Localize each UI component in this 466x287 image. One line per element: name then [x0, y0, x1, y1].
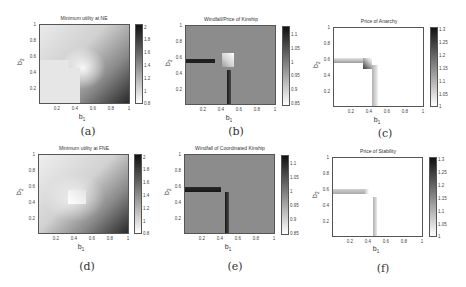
chart-title: Price of Anarchy	[361, 18, 397, 24]
y-tick: 1	[315, 155, 329, 160]
y-tick: 1	[168, 23, 182, 28]
y-tick: 0.8	[168, 39, 182, 44]
heatmap-area	[38, 154, 129, 234]
x-tick: 0.6	[235, 236, 241, 241]
y-axis-label: b2	[15, 188, 24, 194]
y-axis-label: b2	[164, 59, 173, 65]
x-tick: 0.4	[366, 109, 372, 114]
colorbar-tick: 2	[143, 155, 146, 160]
y-tick: 0.2	[315, 219, 329, 224]
colorbar-tick: 1.15	[438, 196, 447, 201]
low-region-step	[69, 68, 80, 103]
band-horizontal-fade	[365, 189, 369, 194]
colorbar-tick: 1.05	[291, 46, 300, 51]
colorbar-tick: 1.2	[439, 53, 445, 58]
colorbar-tick: 1.8	[144, 37, 150, 42]
colorbar-tick: 1.1	[438, 209, 444, 214]
y-tick: 1	[22, 22, 36, 27]
x-tick: 0.4	[365, 239, 371, 244]
y-tick: 0.2	[168, 87, 182, 92]
colorbar-tick: 1.25	[438, 170, 447, 175]
y-tick: 0.2	[167, 216, 181, 221]
colorbar-tick: 1.2	[438, 183, 444, 188]
heatmap-area	[39, 24, 130, 104]
y-tick: 0.4	[22, 70, 36, 75]
heatmap-area	[332, 157, 423, 237]
x-tick: 1	[421, 239, 424, 244]
y-axis-label: b2	[163, 188, 172, 194]
x-tick: 0.2	[200, 107, 206, 112]
colorbar-tick: 0.85	[290, 231, 299, 236]
x-tick: 1	[127, 236, 130, 241]
y-axis-label: b2	[311, 191, 320, 197]
x-tick: 0.6	[236, 107, 242, 112]
y-tick: 0.2	[316, 89, 330, 94]
colorbar	[430, 27, 438, 107]
heatmap-area	[184, 154, 275, 234]
colorbar-tick: 1	[143, 219, 146, 224]
band-vertical	[373, 197, 377, 236]
x-tick: 1	[274, 107, 277, 112]
x-tick: 0.2	[199, 236, 205, 241]
y-tick: 0.2	[21, 216, 35, 221]
x-tick: 0.8	[107, 236, 113, 241]
colorbar-tick: 1	[439, 104, 442, 109]
colorbar-tick: 1.4	[143, 193, 149, 198]
y-axis-label: b2	[312, 61, 321, 67]
colorbar-tick: 0.95	[291, 73, 300, 78]
x-tick: 0.8	[253, 236, 259, 241]
dark-band-horizontal	[185, 187, 221, 192]
x-tick: 0.4	[72, 106, 78, 111]
colorbar-tick: 1.3	[438, 157, 444, 162]
x-tick: 0.8	[108, 106, 114, 111]
chart-title: Minimum utility at FNE	[59, 145, 109, 151]
heatmap-area	[333, 27, 424, 107]
y-tick: 0.4	[21, 200, 35, 205]
band-horizontal	[333, 189, 365, 194]
caption: (a)	[80, 125, 95, 138]
y-tick: 0.4	[315, 203, 329, 208]
colorbar	[281, 155, 289, 235]
caption: (f)	[377, 262, 390, 275]
colorbar-tick: 1.05	[439, 92, 448, 97]
colorbar-tick: 1.1	[439, 79, 445, 84]
colorbar-tick: 1.3	[439, 27, 445, 32]
y-tick: 0.2	[22, 86, 36, 91]
caption: (b)	[228, 125, 244, 138]
y-tick: 0.8	[316, 41, 330, 46]
colorbar	[429, 157, 437, 237]
x-tick: 0.4	[217, 236, 223, 241]
colorbar-tick: 1.6	[144, 50, 150, 55]
heatmap-area	[185, 25, 276, 105]
dark-band-horizontal	[186, 59, 215, 64]
chart-title: Price of Stability	[360, 148, 396, 154]
colorbar-tick: 0.8	[143, 231, 149, 236]
caption: (c)	[378, 127, 393, 140]
x-axis-label: b1	[373, 245, 379, 254]
colorbar-tick: 0.8	[144, 101, 150, 106]
corner-dark	[363, 58, 372, 69]
y-tick: 0.4	[316, 73, 330, 78]
colorbar-tick: 1	[438, 234, 441, 239]
x-tick: 0.6	[89, 236, 95, 241]
y-tick: 0.4	[168, 71, 182, 76]
x-tick: 0.6	[383, 239, 389, 244]
x-tick: 1	[128, 106, 131, 111]
colorbar-tick: 1	[291, 60, 294, 65]
colorbar	[134, 154, 142, 234]
x-tick: 0.6	[384, 109, 390, 114]
colorbar-tick: 1.2	[143, 206, 149, 211]
colorbar-tick: 1	[144, 89, 147, 94]
colorbar-tick: 1.4	[144, 63, 150, 68]
x-tick: 0.2	[54, 106, 60, 111]
y-tick: 0.8	[167, 168, 181, 173]
light-square	[222, 53, 234, 67]
y-tick: 0.4	[167, 200, 181, 205]
y-tick: 0.8	[22, 38, 36, 43]
y-tick: 0.8	[21, 168, 35, 173]
y-tick: 0.8	[315, 171, 329, 176]
x-tick: 0.2	[347, 239, 353, 244]
x-tick: 0.2	[53, 236, 59, 241]
y-tick: 1	[21, 152, 35, 157]
light-square	[68, 190, 86, 204]
